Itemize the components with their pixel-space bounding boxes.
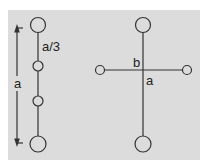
node-small-1 [33,61,43,71]
chain-figure [30,18,46,153]
node-right [183,66,192,75]
label-horizontal: b [133,56,140,69]
node-small-2 [33,96,43,106]
label-vertical: a [146,74,153,87]
label-spacing: a/3 [42,40,60,53]
diagram-drawing [0,0,207,167]
node-large-bottom [30,136,46,152]
cross-figure [96,18,192,153]
node-left [96,66,105,75]
node-bottom [135,136,151,152]
node-top [136,18,151,33]
node-large-top [31,18,46,33]
label-length: a [14,76,21,91]
